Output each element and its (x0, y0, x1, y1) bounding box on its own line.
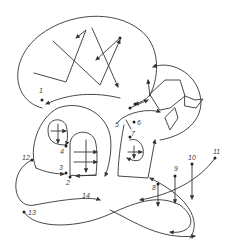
label-10: 10 (188, 154, 196, 161)
loop-back (110, 210, 195, 237)
right-window (127, 139, 143, 160)
right-arrow (130, 100, 148, 108)
label-8: 8 (152, 184, 156, 191)
point-11 (214, 157, 217, 160)
point-4 (65, 145, 68, 148)
label-7: 7 (131, 130, 136, 137)
curve-8-back (150, 178, 194, 238)
cap-pattern-c (92, 28, 118, 87)
right-building (118, 125, 155, 178)
point-3 (65, 172, 68, 175)
label-9: 9 (174, 165, 178, 172)
point-9 (174, 175, 177, 178)
point-cap-a (119, 37, 122, 40)
label-6: 6 (137, 119, 141, 126)
label-1: 1 (39, 87, 43, 94)
label-5: 5 (115, 121, 119, 128)
mushroom-house-diagram: 1 2 3 4 5 6 7 8 9 10 11 12 13 14 (0, 0, 233, 246)
loop-14 (24, 200, 191, 233)
point-12 (31, 159, 34, 162)
diamond-arrow (148, 80, 150, 96)
point-right (129, 107, 132, 110)
diamond-shape (150, 80, 203, 130)
label-4: 4 (60, 148, 64, 155)
point-6 (133, 121, 136, 124)
point-13 (23, 211, 26, 214)
point-cap-b (134, 103, 137, 106)
label-11: 11 (213, 148, 220, 155)
label-12: 12 (22, 154, 30, 161)
cap-pattern-a (34, 30, 86, 82)
cap-underside (46, 94, 120, 104)
label-14: 14 (82, 192, 90, 199)
door (70, 132, 97, 175)
point-10 (191, 163, 194, 166)
label-2: 2 (65, 179, 70, 186)
point-1 (41, 99, 44, 102)
spine-line (126, 120, 131, 129)
point-8 (157, 183, 160, 186)
label-13: 13 (28, 209, 36, 216)
label-3: 3 (59, 164, 63, 171)
house-body (33, 106, 111, 176)
